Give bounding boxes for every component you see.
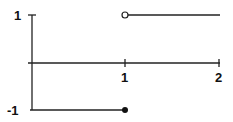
x-label-2: 2 <box>215 70 222 85</box>
open-endpoint-circle <box>122 12 128 18</box>
y-label-neg1: -1 <box>7 103 19 118</box>
x-label-1: 1 <box>121 70 128 85</box>
step-function-chart: 1 -1 1 2 <box>0 0 233 122</box>
y-label-1: 1 <box>14 8 21 23</box>
closed-endpoint-dot <box>122 107 128 113</box>
